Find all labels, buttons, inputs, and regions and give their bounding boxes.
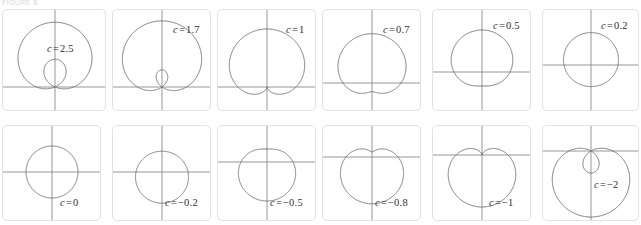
limacon-plot xyxy=(3,10,106,111)
panel-c-minus-2: c=−2 xyxy=(542,125,639,221)
panel-c-0-5: c=0.5 xyxy=(432,9,531,111)
panel-c-minus-0-8: c=−0.8 xyxy=(322,125,421,221)
panel-label: c=−1 xyxy=(489,197,514,208)
label-value: −0.5 xyxy=(283,197,303,208)
label-equals: = xyxy=(291,24,299,35)
label-value: −1 xyxy=(502,197,514,208)
panel-c-minus-1: c=−1 xyxy=(432,125,531,221)
panel-label: c=1.7 xyxy=(173,24,200,35)
panel-label: c=0 xyxy=(60,197,78,208)
panel-label: c=0.5 xyxy=(493,20,520,31)
label-value: −0.2 xyxy=(178,197,198,208)
label-equals: = xyxy=(599,179,607,190)
label-equals: = xyxy=(388,24,396,35)
label-equals: = xyxy=(170,197,178,208)
panel-label: c=−0.5 xyxy=(270,197,303,208)
panel-c-minus-0-2: c=−0.2 xyxy=(112,125,211,221)
panel-label: c=1 xyxy=(286,24,304,35)
limacon-plot xyxy=(543,126,639,221)
panel-c-0-2: c=0.2 xyxy=(542,9,639,111)
label-value: 0 xyxy=(73,197,78,208)
panel-c-1: c=1 xyxy=(217,9,316,111)
label-value: 2.5 xyxy=(60,43,74,54)
panel-label: c=0.2 xyxy=(601,20,628,31)
label-value: 0.7 xyxy=(396,24,410,35)
label-equals: = xyxy=(65,197,73,208)
label-equals: = xyxy=(178,24,186,35)
panel-label: c=2.5 xyxy=(47,43,74,54)
label-value: 1.7 xyxy=(186,24,200,35)
label-value: 0.5 xyxy=(506,20,520,31)
limacon-plot xyxy=(3,126,101,221)
panel-c-minus-0-5: c=−0.5 xyxy=(217,125,316,221)
panel-c-1-7: c=1.7 xyxy=(112,9,211,111)
figure-root: FIGURE 8 c=2.5c=1.7c=1c=0.7c=0.5c=0.2c=0… xyxy=(0,0,641,225)
panel-c-0: c=0 xyxy=(2,125,101,221)
label-equals: = xyxy=(498,20,506,31)
label-equals: = xyxy=(52,43,60,54)
limacon-plot xyxy=(433,126,531,221)
label-value: 0.2 xyxy=(614,20,628,31)
panel-label: c=−2 xyxy=(594,179,619,190)
label-value: −2 xyxy=(607,179,619,190)
label-equals: = xyxy=(494,197,502,208)
panel-label: c=−0.2 xyxy=(165,197,198,208)
panel-c-2-5: c=2.5 xyxy=(2,9,106,111)
limacon-panel-grid: c=2.5c=1.7c=1c=0.7c=0.5c=0.2c=0c=−0.2c=−… xyxy=(0,0,641,225)
label-equals: = xyxy=(606,20,614,31)
panel-c-0-7: c=0.7 xyxy=(322,9,421,111)
label-equals: = xyxy=(275,197,283,208)
label-equals: = xyxy=(380,197,388,208)
label-value: −0.8 xyxy=(388,197,408,208)
panel-label: c=0.7 xyxy=(383,24,410,35)
label-value: 1 xyxy=(299,24,304,35)
panel-label: c=−0.8 xyxy=(375,197,408,208)
